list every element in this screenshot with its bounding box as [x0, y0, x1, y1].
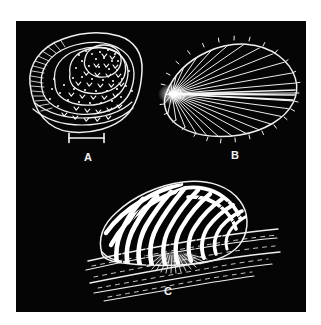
- figure-b-ribbed-shell: [158, 36, 300, 143]
- figure-label-a: A: [84, 152, 92, 163]
- figure-b-umbo-core: [169, 92, 178, 97]
- figure-c-fringe-glow: [150, 249, 202, 269]
- specimen-drawings: [16, 21, 306, 312]
- figure-a-radial-ribs: [31, 39, 65, 111]
- figure-c-striped-shell: [86, 181, 280, 301]
- blade-line-5: [104, 276, 254, 301]
- figure-a-whorl-4-apex: [84, 45, 121, 77]
- illustration-plate: A B C: [0, 0, 321, 325]
- figure-a-spiral-shell: [30, 33, 142, 133]
- scale-bar: [69, 134, 104, 143]
- figure-label-b: B: [231, 150, 239, 161]
- black-panel: A B C: [16, 21, 306, 312]
- figure-label-c: C: [164, 286, 172, 297]
